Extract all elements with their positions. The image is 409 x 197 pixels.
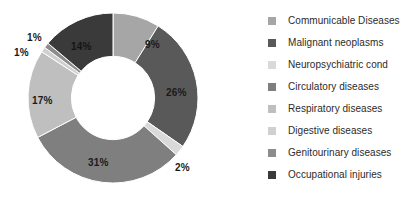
legend-swatch-icon — [268, 171, 276, 179]
chart-legend: Communicable Diseases Malignant neoplasm… — [268, 10, 409, 186]
legend-swatch-icon — [268, 149, 276, 157]
legend-swatch-icon — [268, 17, 276, 25]
legend-item-occupational-injuries[interactable]: Occupational injuries — [268, 164, 409, 186]
slice-label-circulatory-diseases: 31% — [88, 158, 109, 168]
legend-item-label: Genitourinary diseases — [288, 148, 391, 158]
slice-label-neuropsychiatric-cond: 2% — [175, 163, 190, 173]
legend-item-label: Malignant neoplasms — [288, 38, 383, 48]
slice-label-communicable-diseases: 9% — [145, 40, 160, 50]
legend-item-digestive-diseases[interactable]: Digestive diseases — [268, 120, 409, 142]
legend-swatch-icon — [268, 39, 276, 47]
legend-swatch-icon — [268, 83, 276, 91]
legend-item-label: Circulatory diseases — [288, 82, 379, 92]
legend-item-neuropsychiatric-cond[interactable]: Neuropsychiatric cond — [268, 54, 409, 76]
doughnut-plot-area: 9% 26% 2% 31% 17% 1% 1% 14% — [0, 0, 240, 197]
legend-item-respiratory-diseases[interactable]: Respiratory diseases — [268, 98, 409, 120]
doughnut-chart-figure: 9% 26% 2% 31% 17% 1% 1% 14% Communicable… — [0, 0, 409, 197]
slice-label-occupational-injuries: 14% — [71, 42, 92, 52]
legend-swatch-icon — [268, 105, 276, 113]
legend-item-label: Digestive diseases — [288, 126, 372, 136]
slice-label-respiratory-diseases: 17% — [32, 96, 53, 106]
legend-item-label: Respiratory diseases — [288, 104, 382, 114]
legend-swatch-icon — [268, 127, 276, 135]
legend-swatch-icon — [268, 61, 276, 69]
legend-item-label: Communicable Diseases — [288, 16, 400, 26]
legend-item-malignant-neoplasms[interactable]: Malignant neoplasms — [268, 32, 409, 54]
legend-item-circulatory-diseases[interactable]: Circulatory diseases — [268, 76, 409, 98]
slice-label-malignant-neoplasms: 26% — [166, 88, 187, 98]
legend-item-communicable-diseases[interactable]: Communicable Diseases — [268, 10, 409, 32]
legend-item-genitourinary-diseases[interactable]: Genitourinary diseases — [268, 142, 409, 164]
legend-item-label: Neuropsychiatric cond — [288, 60, 388, 70]
legend-item-label: Occupational injuries — [288, 170, 382, 180]
slice-label-genitourinary-diseases: 1% — [14, 48, 29, 58]
slice-label-digestive-diseases: 1% — [27, 33, 42, 43]
